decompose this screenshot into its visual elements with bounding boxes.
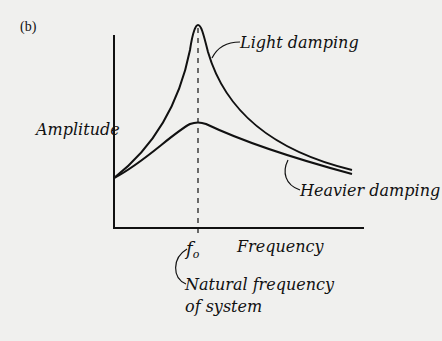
panel-label: (b) bbox=[20, 19, 37, 35]
light-leader bbox=[212, 42, 240, 58]
heavier-damping-curve bbox=[114, 123, 352, 179]
natural-frequency-line2: of system bbox=[185, 297, 262, 316]
resonance-diagram: (b) Light damping Heavier damping Amplit… bbox=[0, 0, 442, 341]
f0-label: fo bbox=[184, 238, 200, 261]
heavier-damping-label: Heavier damping bbox=[299, 181, 440, 200]
x-axis-label: Frequency bbox=[236, 237, 325, 256]
natural-frequency-line1: Natural frequency bbox=[184, 275, 335, 294]
heavy-leader bbox=[285, 160, 300, 190]
y-axis-label: Amplitude bbox=[34, 120, 120, 139]
light-damping-label: Light damping bbox=[239, 33, 359, 52]
